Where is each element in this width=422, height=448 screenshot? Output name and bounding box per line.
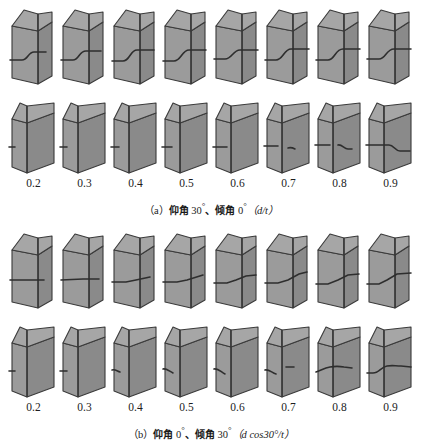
specimen-front-face [318, 119, 333, 173]
specimen-top-face-left [318, 327, 333, 347]
panel-b-caption-term-2: 倾角 [195, 429, 215, 440]
specimen-top-face-left [63, 327, 78, 347]
panel-b-axis-labels: 0.20.30.40.50.60.70.80.9 [0, 400, 422, 416]
specimen-cell-0.4 [110, 93, 161, 179]
specimen-side-face [242, 22, 256, 84]
rock-specimen-wide-0.4 [110, 317, 161, 403]
rock-specimen-wide-0.2 [8, 93, 59, 179]
specimen-cell-0.4 [110, 317, 161, 403]
specimen-side-face [38, 246, 52, 308]
specimen-cell-0.5 [161, 93, 212, 179]
rock-specimen-wide-0.5 [161, 93, 212, 179]
specimen-cell-0.7 [263, 317, 314, 403]
specimen-top-face-left [369, 327, 384, 347]
specimen-cell-0.2 [8, 317, 59, 403]
specimen-front-face [12, 343, 27, 397]
panel-b-caption-separator: 、 [185, 429, 195, 440]
axis-label-0.6: 0.6 [212, 400, 263, 414]
specimen-side-face [344, 246, 358, 308]
rock-specimen-wide-0.9 [365, 93, 416, 179]
specimen-cell-0.6 [212, 4, 263, 90]
rock-specimen-wide-0.9 [365, 317, 416, 403]
specimen-top-face-left [114, 103, 129, 123]
panel-a-axis-labels: 0.20.30.40.50.60.70.80.9 [0, 176, 422, 192]
rock-specimen-tall-0.7 [263, 228, 314, 314]
panel-a-caption-term-1: 仰角 [169, 205, 189, 216]
rock-specimen-tall-0.6 [212, 4, 263, 90]
specimen-cell-0.3 [59, 317, 110, 403]
rock-specimen-tall-0.4 [110, 228, 161, 314]
rock-specimen-wide-0.4 [110, 93, 161, 179]
specimen-front-face [12, 26, 38, 84]
specimen-top-face-left [216, 327, 231, 347]
rock-specimen-wide-0.6 [212, 317, 263, 403]
specimen-top-face-left [165, 327, 180, 347]
specimen-cell-0.9 [365, 317, 416, 403]
specimen-front-face [216, 119, 231, 173]
panel-b-caption: （b）仰角 0°、倾角 30°（d cos30°/t） [0, 422, 422, 443]
panel-a: 0.20.30.40.50.60.70.80.9 （a）仰角 30°、倾角 0°… [0, 0, 422, 224]
specimen-cell-0.4 [110, 228, 161, 314]
rock-specimen-tall-0.5 [161, 4, 212, 90]
rock-specimen-wide-0.2 [8, 317, 59, 403]
axis-label-0.8: 0.8 [314, 176, 365, 190]
rock-specimen-wide-0.5 [161, 317, 212, 403]
axis-label-0.7: 0.7 [263, 400, 314, 414]
specimen-front-face [114, 119, 129, 173]
axis-label-0.2: 0.2 [8, 400, 59, 414]
specimen-cell-0.7 [263, 4, 314, 90]
specimen-front-face [369, 250, 395, 308]
specimen-cell-0.8 [314, 228, 365, 314]
panel-a-row-side [0, 93, 422, 179]
specimen-front-face [12, 119, 27, 173]
specimen-front-face [318, 26, 344, 84]
axis-label-0.7: 0.7 [263, 176, 314, 190]
panel-b-caption-formula: （d cos30°/t） [232, 429, 294, 440]
rock-specimen-tall-0.3 [59, 228, 110, 314]
panel-a-row-front [0, 4, 422, 90]
specimen-front-face [114, 250, 140, 308]
specimen-cell-0.6 [212, 317, 263, 403]
specimen-cell-0.3 [59, 228, 110, 314]
axis-label-0.5: 0.5 [161, 176, 212, 190]
axis-label-0.3: 0.3 [59, 176, 110, 190]
specimen-side-face [395, 246, 409, 308]
rock-specimen-tall-0.9 [365, 228, 416, 314]
panel-b-row-side [0, 317, 422, 403]
specimen-cell-0.5 [161, 4, 212, 90]
rock-specimen-wide-0.6 [212, 93, 263, 179]
specimen-side-face [140, 22, 154, 84]
specimen-top-face-left [369, 103, 384, 123]
rock-specimen-tall-0.3 [59, 4, 110, 90]
panel-b: 0.20.30.40.50.60.70.80.9 （b）仰角 0°、倾角 30°… [0, 224, 422, 448]
specimen-cell-0.3 [59, 93, 110, 179]
axis-label-0.2: 0.2 [8, 176, 59, 190]
specimen-side-face [395, 22, 409, 84]
specimen-top-face-left [267, 327, 282, 347]
specimen-front-face [369, 343, 384, 397]
specimen-cell-0.8 [314, 317, 365, 403]
panel-a-caption-prefix: （a） [144, 205, 169, 216]
rock-specimen-tall-0.8 [314, 4, 365, 90]
specimen-side-face [38, 22, 52, 84]
rock-specimen-tall-0.7 [263, 4, 314, 90]
specimen-top-face-left [12, 327, 27, 347]
rock-specimen-tall-0.2 [8, 228, 59, 314]
specimen-front-face [369, 119, 384, 173]
specimen-cell-0.8 [314, 93, 365, 179]
rock-specimen-wide-0.3 [59, 317, 110, 403]
specimen-top-face-left [114, 327, 129, 347]
specimen-top-face-left [318, 103, 333, 123]
specimen-front-face [114, 26, 140, 84]
panel-a-caption: （a）仰角 30°、倾角 0°（d/t） [0, 198, 422, 219]
rock-specimen-wide-0.8 [314, 93, 365, 179]
specimen-cell-0.3 [59, 4, 110, 90]
axis-label-0.6: 0.6 [212, 176, 263, 190]
specimen-cell-0.7 [263, 228, 314, 314]
rock-specimen-tall-0.9 [365, 4, 416, 90]
specimen-side-face [293, 22, 307, 84]
panel-b-row-front [0, 228, 422, 314]
specimen-cell-0.5 [161, 228, 212, 314]
rock-specimen-wide-0.3 [59, 93, 110, 179]
specimen-front-face [63, 119, 78, 173]
